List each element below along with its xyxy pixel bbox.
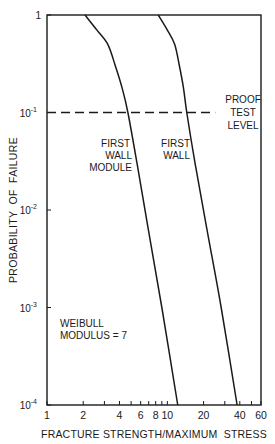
x-axis-ticks: 1246810204060 xyxy=(44,401,267,421)
svg-text:FIRST: FIRST xyxy=(101,138,130,149)
weibull-modulus-label: WEIBULL MODULUS = 7 xyxy=(60,318,127,341)
svg-text:MODULUS = 7: MODULUS = 7 xyxy=(60,330,127,341)
x-tick-label: 60 xyxy=(255,409,267,421)
proof-test-level-label: PROOF TEST LEVEL xyxy=(225,94,261,131)
first-wall-module-curve xyxy=(85,15,178,405)
svg-text:FIRST: FIRST xyxy=(161,138,190,149)
svg-text:WALL: WALL xyxy=(163,150,190,161)
first-wall-curve xyxy=(158,15,237,405)
x-tick-label: 40 xyxy=(234,409,246,421)
svg-text:LEVEL: LEVEL xyxy=(227,120,259,131)
x-axis-label: FRACTURE STRENGTH/MAXIMUM STRESS xyxy=(41,428,267,440)
y-tick-label: 10-2 xyxy=(20,203,37,216)
y-tick-label: 10-1 xyxy=(20,106,37,119)
y-tick-label: 10-3 xyxy=(20,301,37,314)
x-tick-label: 1 xyxy=(44,409,50,421)
y-tick-label: 1 xyxy=(35,10,41,21)
first-wall-module-label: FIRST WALL MODULE xyxy=(89,138,132,173)
svg-text:WEIBULL: WEIBULL xyxy=(60,318,104,329)
x-tick-label: 2 xyxy=(80,409,86,421)
y-tick-label: 10-4 xyxy=(20,398,37,411)
svg-text:PROOF: PROOF xyxy=(225,94,261,105)
x-tick-label: 20 xyxy=(198,409,210,421)
plot-frame xyxy=(47,15,261,405)
y-axis-label: PROBABILITY OF FAILURE xyxy=(7,137,19,283)
x-tick-label: 10 xyxy=(162,409,174,421)
y-axis-ticks: 110-110-210-310-4 xyxy=(20,10,51,411)
svg-text:TEST: TEST xyxy=(230,107,256,118)
x-tick-label: 6 xyxy=(138,409,144,421)
svg-text:MODULE: MODULE xyxy=(89,162,132,173)
x-tick-label: 4 xyxy=(117,409,123,421)
weibull-failure-chart: 1246810204060 110-110-210-310-4 FRACTURE… xyxy=(0,0,275,444)
failure-curves xyxy=(85,15,237,405)
first-wall-label: FIRST WALL xyxy=(161,138,190,161)
x-tick-label: 8 xyxy=(153,409,159,421)
axes-frame xyxy=(47,15,261,405)
svg-text:WALL: WALL xyxy=(105,150,132,161)
